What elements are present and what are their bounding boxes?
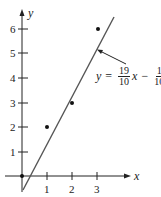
eq-fraction-intercept: 1 10 — [154, 66, 161, 87]
y-tick-label: 3 — [10, 97, 16, 109]
regression-line — [23, 17, 114, 190]
x-axis-label: x — [133, 169, 140, 183]
x-axis-arrow-icon — [124, 174, 131, 179]
line-equation-annotation: y = 19 10 x − 1 10 — [96, 66, 161, 87]
eq-y: y — [96, 69, 101, 84]
y-ticks — [18, 29, 28, 152]
eq-minus: − — [141, 69, 148, 84]
y-axis-label: y — [27, 6, 34, 20]
y-axis-arrow-icon — [20, 9, 25, 16]
y-tick-label: 2 — [10, 121, 16, 133]
x-tick-label: 1 — [44, 183, 50, 195]
data-point — [45, 125, 49, 129]
annotation-pointer — [100, 51, 126, 64]
y-tick-label: 6 — [10, 23, 16, 35]
annotation-arrow-icon — [97, 50, 103, 55]
y-tick-label: 4 — [10, 72, 16, 84]
x-tick-label: 2 — [69, 183, 75, 195]
data-point — [96, 27, 100, 31]
x-tick-label: 3 — [94, 183, 100, 195]
y-tick-label: 5 — [10, 47, 16, 59]
eq-fraction-slope: 19 10 — [118, 66, 130, 87]
data-point — [20, 174, 24, 178]
eq-x: x — [132, 69, 137, 84]
eq-equals: = — [105, 69, 112, 84]
y-tick-label: 1 — [10, 146, 16, 158]
chart: y x 6 5 4 3 2 1 1 2 3 — [0, 0, 161, 197]
data-point — [70, 101, 74, 105]
